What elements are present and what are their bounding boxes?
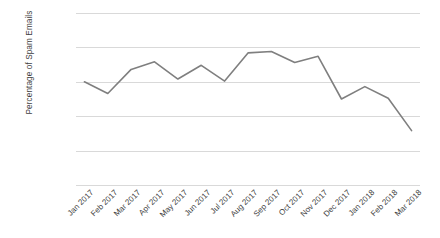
spam-email-line-chart: Percentage of Spam Emails 65.00%60.00%55… (0, 0, 440, 238)
plot-area: 65.00%60.00%55.00%50.00%45.00%40.00% (76, 13, 420, 185)
series-polyline (84, 52, 411, 131)
series-line (76, 13, 420, 185)
gridline (76, 185, 420, 186)
y-axis-title: Percentage of Spam Emails (25, 0, 34, 138)
